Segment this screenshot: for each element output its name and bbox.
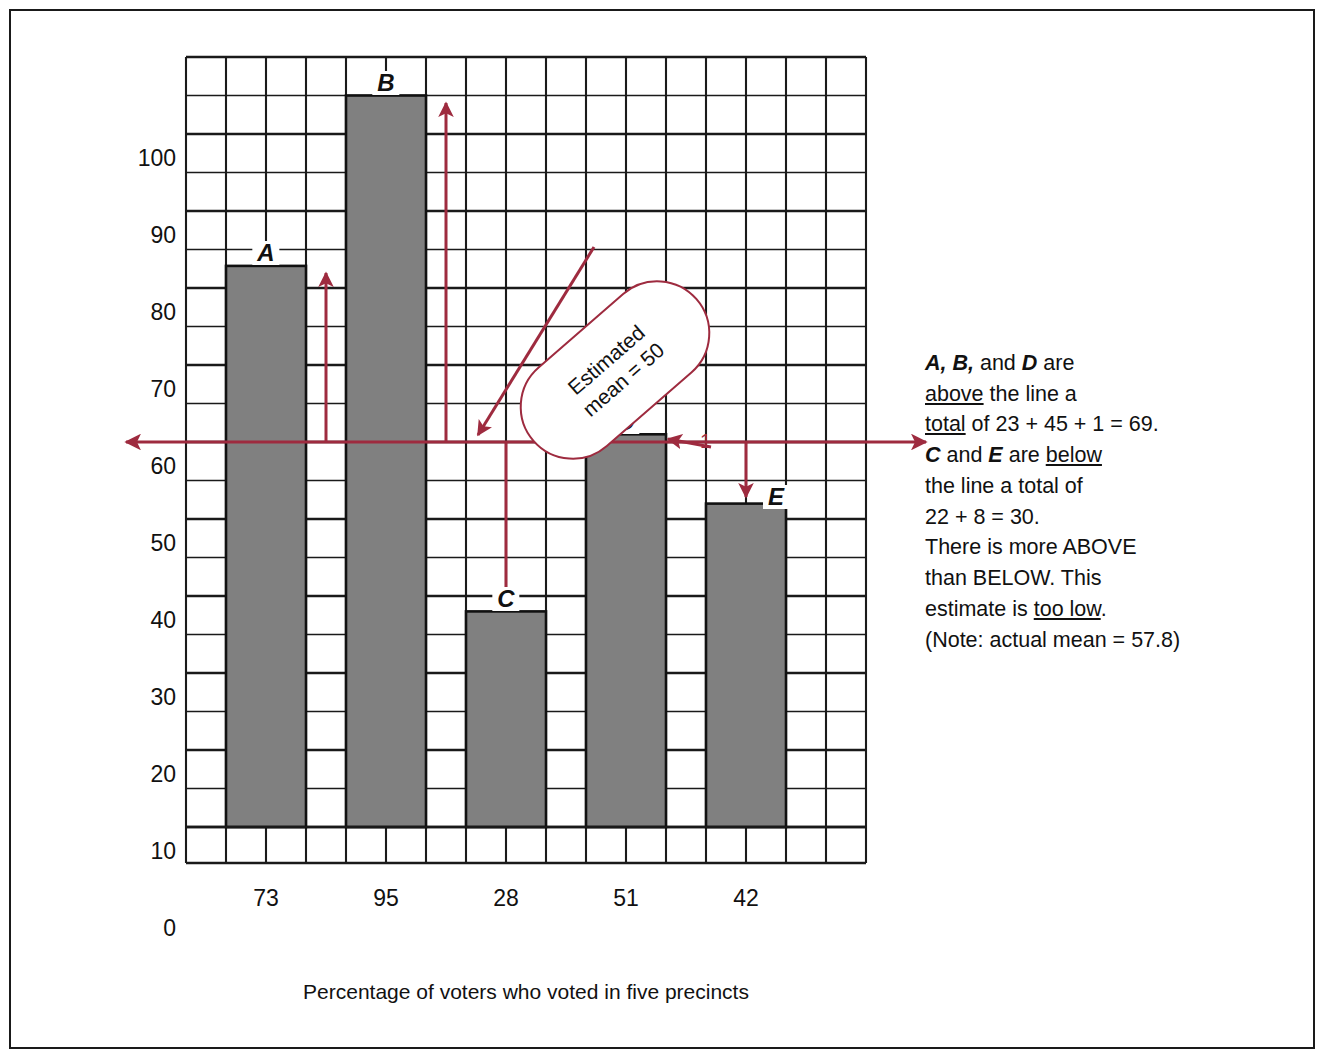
side-note-line-8: than BELOW. This bbox=[925, 563, 1265, 594]
side-note: A, B, and D are above the line a total o… bbox=[925, 348, 1265, 655]
side-note-l4e: below bbox=[1046, 443, 1102, 467]
y-tick-70: 70 bbox=[106, 376, 176, 403]
y-tick-60: 60 bbox=[106, 453, 176, 480]
chart-caption: Percentage of voters who voted in five p… bbox=[186, 980, 866, 1004]
y-axis: 100 90 80 70 60 50 40 30 20 10 0 bbox=[100, 57, 176, 863]
y-tick-50: 50 bbox=[106, 530, 176, 557]
side-note-l1a: A, B, bbox=[925, 351, 974, 375]
side-note-l3b: of 23 + 45 + 1 = 69. bbox=[966, 412, 1159, 436]
side-note-l9a: estimate is bbox=[925, 597, 1034, 621]
bar-A[interactable] bbox=[226, 266, 306, 827]
bar-label-E: E bbox=[763, 485, 789, 509]
side-note-l2a: above bbox=[925, 382, 984, 406]
side-note-l4b: and bbox=[941, 443, 989, 467]
figure-page: 100 90 80 70 60 50 40 30 20 10 0 bbox=[0, 0, 1330, 1063]
bar-B[interactable] bbox=[346, 96, 426, 828]
side-note-l4a: C bbox=[925, 443, 941, 467]
y-tick-0: 0 bbox=[106, 915, 176, 942]
side-note-l4d: are bbox=[1003, 443, 1046, 467]
side-note-line-2: above the line a bbox=[925, 379, 1265, 410]
marker-1-label: 1 bbox=[700, 431, 711, 451]
x-tick-4: 42 bbox=[706, 885, 786, 912]
y-tick-30: 30 bbox=[106, 684, 176, 711]
plot-area: A B C D E bbox=[186, 57, 866, 863]
side-note-line-3: total of 23 + 45 + 1 = 69. bbox=[925, 409, 1265, 440]
y-tick-20: 20 bbox=[106, 761, 176, 788]
side-note-l1c: D bbox=[1022, 351, 1038, 375]
y-tick-90: 90 bbox=[106, 222, 176, 249]
side-note-l2b: the line a bbox=[984, 382, 1077, 406]
bar-label-B: B bbox=[372, 71, 399, 95]
bar-C[interactable] bbox=[466, 611, 546, 827]
side-note-line-7: There is more ABOVE bbox=[925, 532, 1265, 563]
side-note-line-1: A, B, and D are bbox=[925, 348, 1265, 379]
side-note-line-10: (Note: actual mean = 57.8) bbox=[925, 625, 1265, 656]
bar-label-C: C bbox=[492, 587, 519, 611]
y-tick-100: 100 bbox=[106, 145, 176, 172]
bar-label-A: A bbox=[252, 241, 279, 265]
side-note-line-4: C and E are below bbox=[925, 440, 1265, 471]
side-note-l1b: and bbox=[974, 351, 1022, 375]
side-note-l4c: E bbox=[988, 443, 1002, 467]
bar-E[interactable] bbox=[706, 504, 786, 827]
x-tick-1: 95 bbox=[346, 885, 426, 912]
side-note-l1d: are bbox=[1037, 351, 1074, 375]
x-tick-0: 73 bbox=[226, 885, 306, 912]
side-note-l9c: . bbox=[1101, 597, 1107, 621]
y-tick-80: 80 bbox=[106, 299, 176, 326]
x-tick-2: 28 bbox=[466, 885, 546, 912]
chart-svg bbox=[186, 57, 866, 863]
side-note-line-5: the line a total of bbox=[925, 471, 1265, 502]
side-note-line-6: 22 + 8 = 30. bbox=[925, 502, 1265, 533]
y-tick-40: 40 bbox=[106, 607, 176, 634]
y-tick-10: 10 bbox=[106, 838, 176, 865]
x-tick-3: 51 bbox=[586, 885, 666, 912]
side-note-l3a: total bbox=[925, 412, 966, 436]
x-axis: 73 95 28 51 42 bbox=[186, 885, 866, 919]
side-note-l9b: too low bbox=[1034, 597, 1101, 621]
bar-D[interactable] bbox=[586, 434, 666, 827]
side-note-line-9: estimate is too low. bbox=[925, 594, 1265, 625]
